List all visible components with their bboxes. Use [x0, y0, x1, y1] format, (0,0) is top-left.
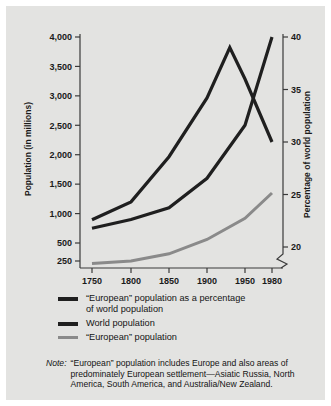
chart-plot-area: 2505001,0001,5002,0002,5003,0003,5004,00…	[6, 6, 325, 294]
right-tick-label: 25	[291, 190, 301, 200]
note-text: “European” population includes Europe an…	[71, 358, 311, 390]
series-line-2	[92, 193, 272, 264]
left-tick-label: 500	[57, 238, 72, 248]
note-label: Note:	[46, 358, 67, 369]
y-axis-title: Population (in millions)	[23, 102, 33, 196]
left-tick-label: 3,000	[49, 91, 72, 101]
left-tick-label: 2,500	[49, 121, 72, 131]
legend-label-line2: of world population	[86, 304, 163, 314]
left-tick-label: 4,000	[49, 32, 72, 42]
x-tick-label: 1850	[159, 276, 179, 286]
x-axis-ticks: 175018001850190019501980	[82, 268, 282, 286]
right-tick-label: 30	[291, 137, 301, 147]
legend-line-swatch-icon	[58, 322, 78, 326]
left-tick-label: 2,000	[49, 150, 72, 160]
left-tick-label: 1,000	[49, 209, 72, 219]
chart-series-group	[92, 37, 272, 264]
legend-label-percentage: “European” population as a percentage of…	[86, 293, 245, 315]
left-tick-label: 250	[57, 256, 72, 266]
right-axis-ticks: 2025303540	[283, 32, 301, 252]
legend-line-swatch-icon	[58, 297, 78, 301]
right-tick-label: 35	[291, 85, 301, 95]
legend-item-european-population: “European” population	[6, 332, 325, 343]
chart-axes	[80, 34, 287, 268]
legend-item-percentage: “European” population as a percentage of…	[6, 293, 325, 315]
x-tick-label: 1980	[262, 276, 282, 286]
x-tick-label: 1900	[197, 276, 217, 286]
series-line-1	[92, 37, 272, 228]
left-tick-label: 3,500	[49, 62, 72, 72]
y2-axis-title: Percentage of world population	[302, 91, 312, 218]
line-chart-svg: 2505001,0001,5002,0002,5003,0003,5004,00…	[6, 6, 325, 294]
figure-panel: 2505001,0001,5002,0002,5003,0003,5004,00…	[6, 6, 325, 400]
chart-note: Note: “European” population includes Eur…	[6, 358, 325, 390]
right-tick-label: 40	[291, 32, 301, 42]
right-axis-break-zigzag	[277, 249, 287, 268]
legend-line-swatch-icon	[58, 336, 78, 339]
x-tick-label: 1950	[235, 276, 255, 286]
legend-label-european-population: “European” population	[86, 332, 177, 343]
legend-label-world-population: World population	[86, 318, 155, 329]
legend-item-world-population: World population	[6, 318, 325, 329]
left-axis-ticks: 2505001,0001,5002,0002,5003,0003,5004,00…	[49, 32, 80, 266]
chart-legend: “European” population as a percentage of…	[6, 293, 325, 346]
x-tick-label: 1750	[82, 276, 102, 286]
left-tick-label: 1,500	[49, 179, 72, 189]
legend-label-line1: “European” population as a percentage	[86, 293, 245, 303]
x-tick-label: 1800	[121, 276, 141, 286]
right-tick-label: 20	[291, 242, 301, 252]
series-line-0	[92, 48, 272, 220]
